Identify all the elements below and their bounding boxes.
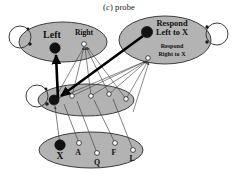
link-hidden-respond-right xyxy=(126,61,148,99)
label-input-q: Q xyxy=(94,158,100,167)
node-input-q[interactable] xyxy=(95,151,100,156)
self-loop-left-right-layer-dot2 xyxy=(27,28,30,31)
self-loop-respond-layer-dot xyxy=(205,25,208,28)
diagram-root: (c) probe xyxy=(0,0,238,177)
network-diagram: Left Right Respond Left to X Respond Rig… xyxy=(0,0,238,177)
node-respond-right-to-x[interactable] xyxy=(146,56,151,61)
node-input-f[interactable] xyxy=(113,141,118,146)
node-left[interactable] xyxy=(50,43,60,53)
label-input-a: A xyxy=(75,148,81,157)
label-respond-right-to-x-line1: Respond xyxy=(161,43,184,49)
self-loop-left-right-layer-dot xyxy=(28,42,31,45)
node-respond-left-to-x[interactable] xyxy=(141,26,152,37)
node-hidden-4[interactable] xyxy=(124,97,129,102)
label-input-f: F xyxy=(112,148,117,157)
label-respond-left-to-x-line1: Respond xyxy=(156,19,188,28)
node-input-l[interactable] xyxy=(131,148,136,153)
label-right: Right xyxy=(75,28,94,37)
label-left: Left xyxy=(43,29,61,40)
label-input-x: X xyxy=(57,151,64,161)
self-loop-respond-layer-dot2 xyxy=(205,40,208,43)
node-input-x[interactable] xyxy=(55,140,65,150)
node-hidden-1[interactable] xyxy=(70,94,75,99)
node-hidden-2[interactable] xyxy=(89,94,94,99)
label-respond-right-to-x-line2: Right to X xyxy=(158,51,186,57)
node-input-a[interactable] xyxy=(77,141,82,146)
self-loop-hidden-layer-dot2 xyxy=(45,88,48,91)
node-right[interactable] xyxy=(82,42,87,47)
link-hidden-respond-right xyxy=(109,61,147,94)
label-respond-left-to-x-line2: Left to X xyxy=(156,28,188,37)
link-hidden-respond-right xyxy=(133,62,149,112)
node-hidden-3[interactable] xyxy=(107,92,112,97)
self-loop-hidden-layer-dot xyxy=(45,102,49,106)
label-input-l: L xyxy=(129,154,134,163)
node-hidden-0[interactable] xyxy=(49,95,59,105)
